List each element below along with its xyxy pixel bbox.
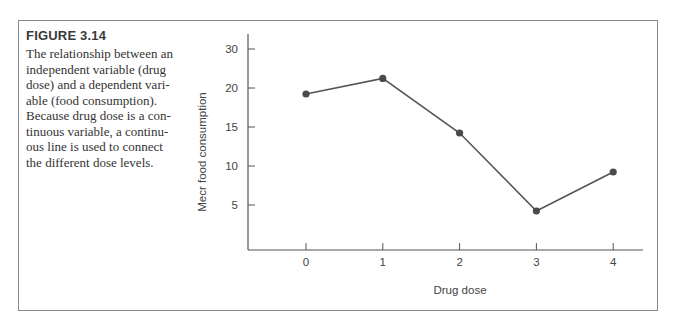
y-axis-ticks: 510152030 — [225, 43, 255, 211]
y-tick-label: 20 — [225, 82, 238, 94]
data-point — [456, 129, 463, 136]
y-tick-label: 5 — [232, 199, 238, 211]
data-point — [379, 75, 386, 82]
line-chart: 510152030 01234 Mecr food consumption Dr… — [0, 0, 680, 326]
y-axis-label: Mecr food consumption — [196, 92, 208, 212]
y-tick-label: 30 — [225, 43, 238, 55]
x-tick-label: 4 — [610, 256, 617, 268]
y-tick-label: 15 — [225, 121, 238, 133]
x-tick-label: 2 — [456, 256, 462, 268]
data-line — [306, 78, 613, 211]
x-axis-label: Drug dose — [433, 284, 486, 296]
x-axis-ticks: 01234 — [303, 243, 617, 268]
data-point — [610, 168, 617, 175]
x-tick-label: 0 — [303, 256, 309, 268]
data-point — [533, 207, 540, 214]
x-tick-label: 1 — [380, 256, 386, 268]
y-tick-label: 10 — [225, 160, 238, 172]
x-tick-label: 3 — [533, 256, 539, 268]
data-point — [302, 90, 309, 97]
